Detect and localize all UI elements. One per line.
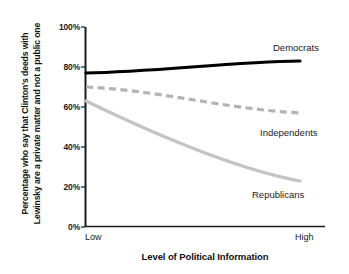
series-line-independents bbox=[86, 87, 300, 113]
chart-container: Percentage who say that Clinton's deeds … bbox=[0, 0, 349, 274]
series-line-republicans bbox=[86, 101, 300, 181]
series-line-democrats bbox=[86, 61, 300, 73]
plot-area bbox=[0, 0, 349, 274]
y-tick-marks bbox=[81, 27, 85, 227]
